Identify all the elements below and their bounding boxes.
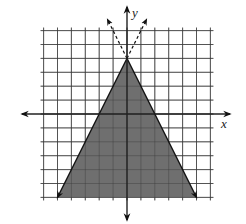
x-axis-label: x [220, 116, 227, 131]
y-axis-label: y [130, 5, 138, 20]
coordinate-plane: y x [0, 0, 246, 224]
